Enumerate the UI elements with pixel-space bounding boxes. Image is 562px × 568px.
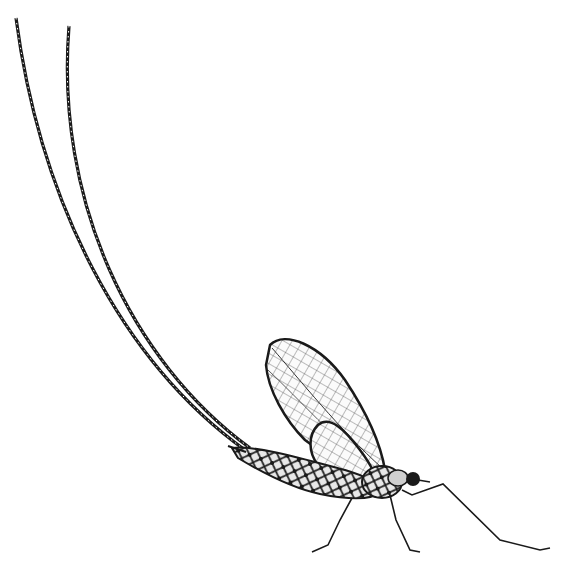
tail-filaments <box>16 18 250 450</box>
thorax <box>362 466 408 498</box>
mayfly-illustration <box>0 0 562 568</box>
mayfly-drawing <box>0 0 562 568</box>
head <box>406 472 430 486</box>
